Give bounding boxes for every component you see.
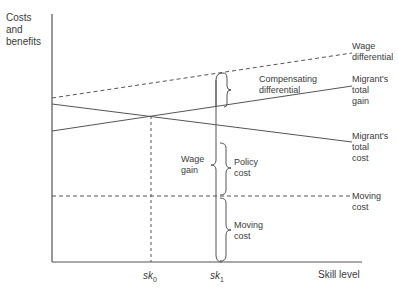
diagram-canvas	[0, 0, 398, 292]
x-axis-label: Skill level	[318, 269, 360, 281]
total-gain-label: Migrant's total gain	[352, 74, 388, 107]
wage-differential-label: Wage differential	[352, 41, 393, 63]
total-cost-label: Migrant's total cost	[352, 131, 388, 164]
total-cost-line	[52, 104, 352, 142]
compensating-differential-brace	[216, 73, 231, 107]
compensating-differential-label: Compensating differential	[259, 74, 317, 96]
wage-gain-label: Wage gain	[181, 154, 204, 176]
moving-cost-brace	[220, 198, 231, 261]
y-axis-label: Costs and benefits	[6, 12, 41, 48]
tick-sk0: sk0	[143, 270, 157, 285]
moving-cost-line-label: Moving cost	[352, 191, 381, 213]
tick-sk1: sk1	[210, 270, 224, 285]
policy-cost-label: Policy cost	[234, 157, 258, 179]
policy-cost-brace	[220, 143, 231, 195]
moving-cost-brace-label: Moving cost	[234, 220, 263, 242]
